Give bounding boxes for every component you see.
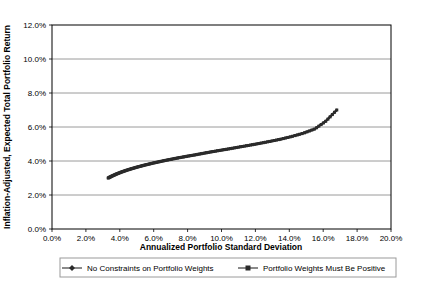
square-marker-icon — [246, 266, 251, 271]
chart-container: 0.0%2.0%4.0%6.0%8.0%10.0%12.0% 0.0%2.0%4… — [0, 0, 425, 286]
chart-legend: No Constraints on Portfolio WeightsPortf… — [60, 258, 396, 277]
y-tick-label: 10.0% — [23, 55, 46, 64]
y-tick-label: 0.0% — [28, 225, 46, 234]
y-tick-label: 8.0% — [28, 89, 46, 98]
y-tick-label: 2.0% — [28, 191, 46, 200]
y-axis-title: Inflation-Adjusted, Expected Total Portf… — [2, 25, 12, 229]
x-tick-label: 4.0% — [111, 234, 129, 243]
efficient-frontier-chart: 0.0%2.0%4.0%6.0%8.0%10.0%12.0% 0.0%2.0%4… — [0, 0, 425, 286]
x-tick-label: 18.0% — [346, 234, 369, 243]
square-marker-icon — [335, 109, 338, 112]
x-axis-title: Annualized Portfolio Standard Deviation — [140, 242, 302, 252]
y-tick-label: 4.0% — [28, 157, 46, 166]
x-tick-label: 2.0% — [77, 234, 95, 243]
legend-label: No Constraints on Portfolio Weights — [87, 264, 214, 273]
y-tick-label: 6.0% — [28, 123, 46, 132]
legend-label: Portfolio Weights Must Be Positive — [263, 264, 386, 273]
x-tick-label: 20.0% — [380, 234, 403, 243]
x-tick-label: 16.0% — [312, 234, 335, 243]
x-tick-label: 0.0% — [43, 234, 61, 243]
y-tick-label: 12.0% — [23, 21, 46, 30]
